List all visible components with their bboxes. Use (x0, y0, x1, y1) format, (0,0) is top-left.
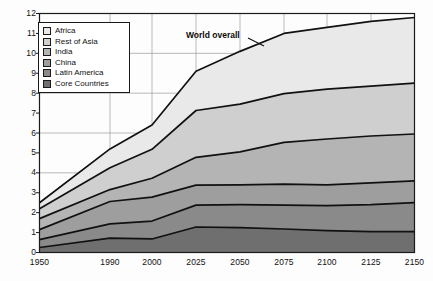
y-tick-label: 7 (12, 108, 36, 118)
x-tick-label: 2150 (395, 257, 433, 267)
world-overall-annotation: World overall (186, 30, 240, 40)
y-tick-label: 11 (12, 28, 36, 38)
legend-label: Latin America (55, 68, 103, 78)
legend-item: Rest of Asia (43, 37, 125, 48)
y-tick-label: 0 (12, 247, 36, 257)
legend-swatch (43, 38, 51, 46)
legend-label: Africa (55, 26, 75, 36)
legend-label: Core Countries (55, 79, 109, 89)
legend-label: China (55, 58, 76, 68)
chart-canvas: 1211109876543210 19501990200020252050207… (0, 0, 433, 281)
y-tick-label: 6 (12, 128, 36, 138)
chart-legend: AfricaRest of AsiaIndiaChinaLatin Americ… (38, 22, 130, 93)
x-tick-label: 2050 (220, 257, 260, 267)
y-tick-label: 9 (12, 68, 36, 78)
y-tick-label: 4 (12, 167, 36, 177)
x-tick-label: 1950 (20, 257, 60, 267)
legend-swatch (43, 27, 51, 35)
y-tick-label: 5 (12, 147, 36, 157)
y-tick-label: 10 (12, 48, 36, 58)
legend-swatch (43, 48, 51, 56)
legend-swatch (43, 69, 51, 77)
x-tick-label: 2100 (307, 257, 347, 267)
y-tick-label: 1 (12, 227, 36, 237)
legend-item: Latin America (43, 68, 125, 79)
y-tick-label: 12 (12, 8, 36, 18)
legend-item: India (43, 47, 125, 58)
y-tick-label: 8 (12, 88, 36, 98)
legend-item: Core Countries (43, 79, 125, 90)
x-tick-label: 2000 (132, 257, 172, 267)
x-tick-label: 2125 (351, 257, 391, 267)
legend-item: Africa (43, 26, 125, 37)
y-tick-label: 2 (12, 207, 36, 217)
x-tick-label: 1990 (90, 257, 130, 267)
legend-label: Rest of Asia (55, 37, 98, 47)
legend-swatch (43, 59, 51, 67)
x-tick-label: 2025 (176, 257, 216, 267)
legend-swatch (43, 80, 51, 88)
x-tick-label: 2075 (264, 257, 304, 267)
legend-item: China (43, 58, 125, 69)
legend-label: India (55, 47, 72, 57)
y-tick-label: 3 (12, 187, 36, 197)
